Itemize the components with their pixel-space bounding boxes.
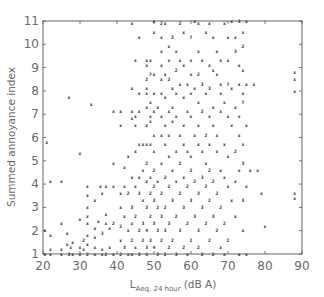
data-point: x (119, 109, 122, 114)
data-point: 2 (164, 252, 167, 257)
data-point: 3 (179, 228, 182, 233)
data-point: x (245, 82, 248, 87)
data-point: x (238, 168, 241, 173)
data-point: x (219, 82, 222, 87)
y-axis-ticks: 1234567891011 (24, 14, 302, 261)
data-point: 2 (208, 238, 211, 243)
data-point: 3 (201, 205, 204, 210)
data-point: x (86, 221, 89, 226)
data-point: x (112, 109, 115, 114)
data-point: 2 (208, 198, 211, 203)
data-point: x (43, 228, 46, 233)
data-point: x (182, 123, 185, 128)
x-tick-label: 60 (183, 259, 198, 273)
data-point: x (160, 133, 163, 138)
data-point: x (138, 142, 141, 147)
data-point: x (212, 105, 215, 110)
x-axis-title: LAeq, 24 hour(dB A) (130, 278, 217, 293)
data-point: x (82, 247, 85, 252)
data-point: x (105, 221, 108, 226)
data-point: x (241, 142, 244, 147)
data-point: 2 (153, 184, 156, 189)
data-point: x (149, 119, 152, 124)
data-point: x (69, 245, 72, 250)
data-point: x (190, 114, 193, 119)
data-point: x (105, 212, 108, 217)
data-point: x (86, 193, 89, 198)
data-point: 2 (190, 238, 193, 243)
data-point: x (71, 240, 74, 245)
data-point: x (175, 114, 178, 119)
data-point: x (179, 133, 182, 138)
data-point: x (93, 198, 96, 203)
data-point: 3 (145, 245, 148, 250)
data-point: 2 (241, 44, 244, 49)
x-tick-label: 40 (109, 259, 124, 273)
data-point: x (245, 123, 248, 128)
data-point: x (256, 168, 259, 173)
data-point: 2 (86, 252, 89, 257)
data-point: 3 (123, 245, 126, 250)
data-point: x (223, 252, 226, 257)
data-point: 4 (145, 228, 148, 233)
data-point: x (219, 58, 222, 63)
data-point: x (164, 72, 167, 77)
data-point: x (245, 184, 248, 189)
data-point: x (197, 21, 200, 26)
data-point: 2 (212, 252, 215, 257)
data-point: x (204, 91, 207, 96)
data-point: x (130, 221, 133, 226)
data-point: x (241, 68, 244, 73)
y-tick-label: 11 (24, 14, 39, 28)
data-point: 2 (175, 68, 178, 73)
data-point: x (234, 35, 237, 40)
data-point: 3 (149, 238, 152, 243)
data-point: x (86, 242, 89, 247)
data-point: 3 (68, 252, 71, 257)
data-point: x (108, 245, 111, 250)
data-point: 2 (145, 161, 148, 166)
data-point: 3 (153, 198, 156, 203)
data-point: x (86, 214, 89, 219)
y-tick-label: 9 (31, 61, 39, 75)
data-point: x (201, 149, 204, 154)
plot-frame (43, 21, 302, 254)
data-point: x (145, 179, 148, 184)
data-point: x (167, 154, 170, 159)
data-point: x (241, 30, 244, 35)
data-point: x (149, 100, 152, 105)
data-point: x (190, 91, 193, 96)
data-point: 2 (182, 245, 185, 250)
data-point: 3 (142, 221, 145, 226)
data-point: x (49, 252, 52, 257)
data-point: x (230, 123, 233, 128)
data-point: x (179, 58, 182, 63)
data-point: 3 (164, 228, 167, 233)
data-point: x (79, 217, 82, 222)
y-tick-label: 7 (31, 107, 39, 121)
data-point: x (223, 100, 226, 105)
data-point: 2 (179, 161, 182, 166)
data-point: x (66, 242, 69, 247)
y-tick-label: 8 (31, 84, 39, 98)
data-point: x (145, 63, 148, 68)
data-point: x (153, 72, 156, 77)
data-point: x (160, 114, 163, 119)
data-point: x (130, 109, 133, 114)
data-point: 3 (130, 205, 133, 210)
data-point: 3 (197, 228, 200, 233)
data-point: x (238, 63, 241, 68)
data-point: x (197, 142, 200, 147)
data-point: x (212, 35, 215, 40)
data-point: x (153, 133, 156, 138)
data-point: x (90, 102, 93, 107)
data-point: x (93, 226, 96, 231)
data-point: 2 (164, 175, 167, 180)
data-point: x (230, 198, 233, 203)
data-point: 3 (241, 198, 244, 203)
data-point: x (127, 228, 130, 233)
data-point: x (238, 133, 241, 138)
data-point: x (60, 179, 63, 184)
data-point: 4 (153, 245, 156, 250)
data-point: x (153, 19, 156, 24)
